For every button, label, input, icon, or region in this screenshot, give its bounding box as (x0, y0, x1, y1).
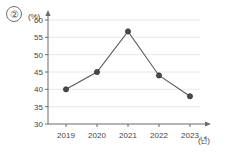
y-tick-label: 50 (34, 51, 43, 60)
data-point-marker (94, 69, 99, 74)
gridlines-group (48, 20, 200, 107)
data-point-marker (187, 94, 192, 99)
y-tick-label: 40 (34, 85, 43, 94)
series-line-group (66, 31, 190, 96)
x-tick-label: 2020 (88, 131, 106, 140)
data-point-marker (63, 87, 68, 92)
x-tick-label: 2023 (181, 131, 199, 140)
series-line (66, 31, 190, 96)
x-tick-labels-group: 20192020202120222023 (57, 131, 199, 140)
y-tick-label: 60 (34, 16, 43, 25)
y-tick-labels-group: 30354045505560 (34, 16, 43, 129)
line-chart-plot: 30354045505560 20192020202120222023 (0, 0, 227, 154)
y-tick-label: 45 (34, 68, 43, 77)
y-axis-arrow-icon (45, 10, 50, 16)
y-tick-label: 55 (34, 33, 43, 42)
x-tick-label: 2022 (150, 131, 168, 140)
chart-figure: ② (%) (년) 30354045505560 201920202021202… (0, 0, 227, 154)
data-point-marker (156, 73, 161, 78)
axes-group (45, 10, 211, 127)
y-tick-label: 35 (34, 103, 43, 112)
y-tick-label: 30 (34, 120, 43, 129)
series-markers-group (63, 29, 192, 99)
x-axis-arrow-icon (205, 121, 211, 126)
data-point-marker (125, 29, 130, 34)
x-tick-label: 2019 (57, 131, 75, 140)
x-tick-label: 2021 (119, 131, 137, 140)
